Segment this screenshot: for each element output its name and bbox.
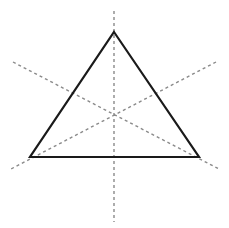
geometry-figure	[0, 0, 229, 228]
figure-container	[0, 0, 229, 228]
